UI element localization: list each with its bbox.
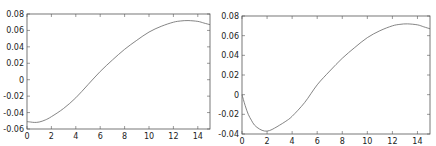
x-tick-label: 0 (24, 132, 29, 141)
x-tick-label: 0 (239, 137, 244, 146)
plot-frame (242, 16, 430, 134)
y-tick-label: -0.02 (218, 110, 239, 119)
y-tick-label: 0.02 (6, 59, 24, 68)
y-tick-label: 0 (234, 91, 239, 100)
x-tick-label: 4 (290, 137, 295, 146)
x-tick-label: 10 (144, 132, 154, 141)
y-tick-label: 0.08 (6, 10, 24, 19)
x-tick-label: 2 (49, 132, 54, 141)
x-tick-label: 12 (387, 137, 397, 146)
y-tick-label: 0.02 (221, 71, 239, 80)
series-line (27, 21, 210, 123)
figure: 02468101214-0.06-0.04-0.0200.020.040.060… (0, 0, 436, 146)
x-tick-label: 6 (98, 132, 103, 141)
y-tick-label: 0.04 (221, 51, 239, 60)
y-tick-label: 0.06 (221, 32, 239, 41)
x-tick-label: 10 (362, 137, 372, 146)
y-tick-label: -0.04 (3, 109, 24, 118)
y-tick-label: 0.08 (221, 12, 239, 21)
x-tick-label: 6 (315, 137, 320, 146)
y-tick-label: -0.02 (3, 92, 24, 101)
x-tick-label: 12 (168, 132, 178, 141)
x-tick-label: 8 (340, 137, 345, 146)
x-tick-label: 14 (412, 137, 422, 146)
y-tick-label: -0.04 (218, 130, 239, 139)
chart-right: 02468101214-0.04-0.0200.020.040.060.08 (218, 12, 430, 146)
plot-frame (27, 14, 210, 129)
y-tick-label: 0.04 (6, 43, 24, 52)
series-line (242, 24, 430, 131)
y-tick-label: 0 (19, 76, 24, 85)
x-tick-label: 8 (122, 132, 127, 141)
chart-left: 02468101214-0.06-0.04-0.0200.020.040.060… (3, 10, 210, 141)
y-tick-label: -0.06 (3, 125, 24, 134)
x-tick-label: 2 (265, 137, 270, 146)
x-tick-label: 4 (73, 132, 78, 141)
x-tick-label: 14 (193, 132, 203, 141)
y-tick-label: 0.06 (6, 26, 24, 35)
